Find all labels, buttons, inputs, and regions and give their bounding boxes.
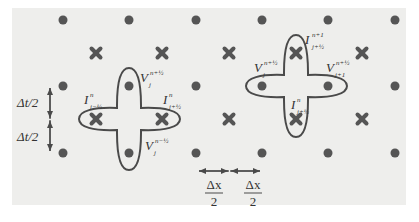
svg-text:2: 2	[250, 194, 257, 209]
svg-text:Δx: Δx	[246, 177, 261, 192]
voltage-node-dot	[192, 82, 201, 91]
svg-text:n+½: n+½	[150, 69, 164, 77]
voltage-node-dot	[192, 16, 201, 25]
svg-text:n+1: n+1	[312, 31, 324, 39]
voltage-node-dot	[258, 149, 267, 158]
voltage-node-dot	[59, 16, 68, 25]
voltage-node-dot	[324, 149, 333, 158]
svg-text:n: n	[297, 96, 301, 104]
svg-text:j: j	[153, 149, 156, 157]
svg-text:I: I	[290, 97, 296, 112]
svg-text:j+½: j+½	[168, 103, 182, 111]
svg-text:2: 2	[211, 194, 218, 209]
voltage-node-dot	[192, 149, 201, 158]
dt-half-lower-label: Δt/2	[16, 129, 39, 144]
svg-text:n+½: n+½	[336, 59, 350, 67]
voltage-node-dot	[125, 82, 134, 91]
voltage-node-dot	[125, 16, 134, 25]
dt-half-upper-label: Δt/2	[16, 95, 39, 110]
svg-text:I: I	[162, 92, 168, 107]
svg-text:n+½: n+½	[264, 59, 278, 67]
svg-text:j−½: j−½	[89, 103, 103, 111]
svg-text:j+1: j+1	[334, 71, 345, 79]
voltage-node-dot	[125, 149, 134, 158]
svg-text:I: I	[304, 32, 310, 47]
svg-text:j: j	[262, 71, 265, 79]
svg-text:I: I	[83, 92, 89, 107]
svg-text:j+½: j+½	[311, 43, 325, 51]
svg-text:n−½: n−½	[155, 137, 169, 145]
voltage-node-dot	[258, 82, 267, 91]
voltage-node-dot	[258, 16, 267, 25]
svg-text:j+½: j+½	[296, 108, 310, 116]
voltage-node-dot	[391, 16, 400, 25]
svg-text:n: n	[90, 91, 94, 99]
voltage-node-dot	[391, 149, 400, 158]
background-panel	[12, 8, 406, 205]
voltage-node-dot	[324, 16, 333, 25]
svg-text:j: j	[148, 81, 151, 89]
voltage-node-dot	[324, 82, 333, 91]
svg-text:n: n	[169, 91, 173, 99]
voltage-node-dot	[391, 82, 400, 91]
fdtd-stencil-diagram: V n+½ j I n j−½ I n j+½ V n−½ j I n+1 j+…	[0, 0, 419, 222]
voltage-node-dot	[59, 149, 68, 158]
voltage-node-dot	[59, 82, 68, 91]
svg-text:Δx: Δx	[207, 177, 222, 192]
